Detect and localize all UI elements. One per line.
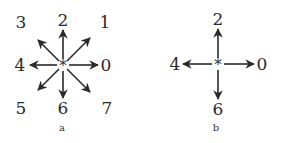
arrow-5 (38, 69, 59, 90)
center-symbol-a: * (59, 56, 67, 75)
arrow-7 (67, 69, 90, 92)
label-1: 1 (100, 12, 111, 32)
arrow-1 (67, 38, 90, 61)
center-symbol-b: * (214, 55, 222, 74)
label-5: 5 (16, 98, 27, 118)
label-2: 2 (58, 10, 69, 30)
label-0: 0 (101, 55, 112, 75)
caption-a: a (59, 122, 65, 133)
caption-b: b (213, 122, 219, 133)
label-4: 4 (170, 54, 181, 74)
arrow-3 (38, 40, 59, 61)
label-2: 2 (213, 9, 224, 29)
label-7: 7 (102, 98, 113, 118)
label-3: 3 (16, 12, 27, 32)
label-6: 6 (58, 98, 69, 118)
label-0: 0 (257, 54, 268, 74)
label-6: 6 (213, 99, 224, 119)
diagram-a-8-directions: * 3 2 1 4 0 5 6 7 a (15, 10, 113, 133)
direction-code-figure: * 3 2 1 4 0 5 6 7 a * 2 4 0 6 b (0, 0, 281, 143)
label-4: 4 (15, 55, 26, 75)
diagram-b-4-directions: * 2 4 0 6 b (170, 9, 268, 133)
